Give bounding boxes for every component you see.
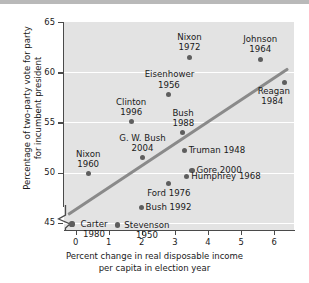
y-axis-tick [58,22,63,23]
data-point-marker [258,57,263,62]
data-point-marker [129,119,134,124]
y-axis-tick [58,122,63,123]
x-axis-tick-label: 4 [200,237,216,247]
x-axis-label: Percent change in real disposable income… [0,251,309,274]
x-axis-tick [241,230,242,235]
data-point-label: Ford 1976 [147,188,191,198]
y-axis-line [63,22,64,207]
data-point-label: Johnson 1964 [243,34,277,54]
data-point-label: Clinton 1996 [114,97,148,117]
y-axis-tick [58,223,63,224]
data-point-label: Nixon 1960 [76,149,100,169]
data-point-label: Humphrey 1968 [191,171,260,181]
x-axis-tick-label: 5 [233,237,249,247]
x-axis-tick [274,230,275,235]
data-point-marker [182,148,187,153]
x-axis-tick-label: 6 [266,237,282,247]
data-point-label: Stevenson 1950 [122,220,172,240]
data-point-label: Bush 1992 [146,202,196,212]
data-point-label: Reagan 1984 [258,86,287,106]
data-point-marker [115,222,120,227]
data-point-label: Truman 1948 [189,145,248,155]
data-point-marker [86,171,91,176]
top-border-bar [0,0,309,4]
data-point-label: G. W. Bush 2004 [118,133,167,153]
y-axis-break-icon [56,203,74,231]
data-point-label: Nixon 1972 [177,32,201,52]
scatter-plot-figure: 4550556065 0123456 Nixon 1972Johnson 196… [0,0,309,283]
data-point-marker [69,221,74,226]
data-point-label: Carter 1980 [76,219,111,239]
y-axis-tick-label: 45 [33,217,55,227]
data-point-marker [187,55,192,60]
y-axis-tick [58,72,63,73]
x-axis-tick [175,230,176,235]
data-point-marker [180,130,185,135]
y-axis-tick [58,173,63,174]
data-point-label: Eisenhower 1956 [145,69,194,89]
x-axis-tick [208,230,209,235]
data-point-label: Bush 1988 [172,108,191,128]
y-axis-label: Percentage of two-party vote for party f… [22,20,43,196]
